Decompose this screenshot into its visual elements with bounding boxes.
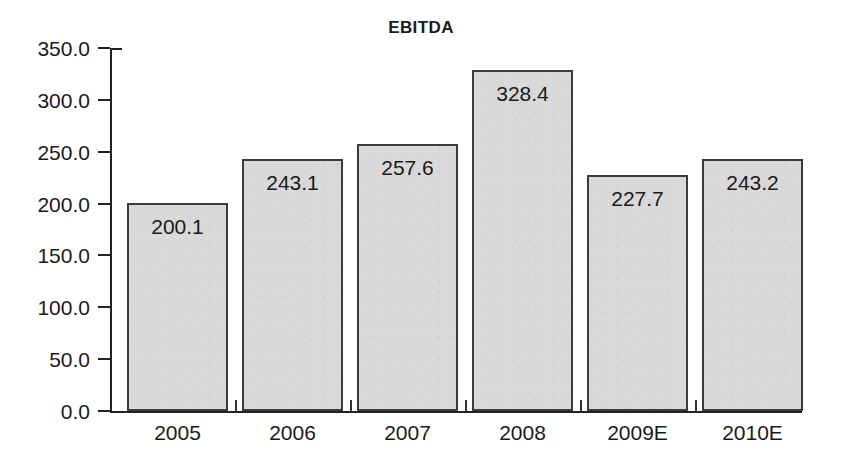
y-axis-tick — [98, 410, 110, 412]
y-axis-tick — [98, 47, 110, 49]
y-axis-tick-label: 50.0 — [49, 349, 90, 370]
x-axis-tick — [580, 400, 582, 412]
y-axis-tick-label: 350.0 — [37, 38, 90, 59]
bar-value-label: 243.2 — [702, 172, 803, 193]
y-axis-top-cap — [110, 48, 122, 50]
y-axis-tick — [98, 358, 110, 360]
x-axis-line — [110, 411, 802, 413]
bar — [357, 144, 458, 411]
y-axis-tick-label: 100.0 — [37, 297, 90, 318]
y-axis-tick-label: 150.0 — [37, 245, 90, 266]
bar-value-label: 200.1 — [127, 216, 228, 237]
bar-value-label: 328.4 — [472, 83, 573, 104]
y-axis-tick — [98, 99, 110, 101]
x-axis-tick-label: 2007 — [357, 422, 458, 443]
bar — [702, 159, 803, 411]
bar — [242, 159, 343, 411]
x-axis-tick — [465, 400, 467, 412]
y-axis-line — [110, 48, 112, 413]
bar-value-label: 227.7 — [587, 188, 688, 209]
y-axis-tick — [98, 306, 110, 308]
x-axis-tick — [235, 400, 237, 412]
y-axis-tick-label: 200.0 — [37, 194, 90, 215]
x-axis-tick — [350, 400, 352, 412]
y-axis-tick — [98, 151, 110, 153]
bar-value-label: 257.6 — [357, 157, 458, 178]
y-axis-tick-label: 300.0 — [37, 90, 90, 111]
x-axis-tick-label: 2006 — [242, 422, 343, 443]
bar — [472, 70, 573, 411]
x-axis-tick-label: 2005 — [127, 422, 228, 443]
x-axis-tick — [695, 400, 697, 412]
x-axis-tick-label: 2009E — [587, 422, 688, 443]
bar — [587, 175, 688, 411]
x-axis-tick-label: 2010E — [702, 422, 803, 443]
y-axis-tick — [98, 203, 110, 205]
bar-value-label: 243.1 — [242, 172, 343, 193]
ebitda-bar-chart: EBITDA 350.0300.0250.0200.0150.0100.050.… — [0, 0, 842, 466]
x-axis-tick-label: 2008 — [472, 422, 573, 443]
y-axis-tick-label: 0.0 — [61, 401, 90, 422]
y-axis-tick — [98, 254, 110, 256]
y-axis-tick-label: 250.0 — [37, 142, 90, 163]
chart-title: EBITDA — [0, 18, 842, 38]
